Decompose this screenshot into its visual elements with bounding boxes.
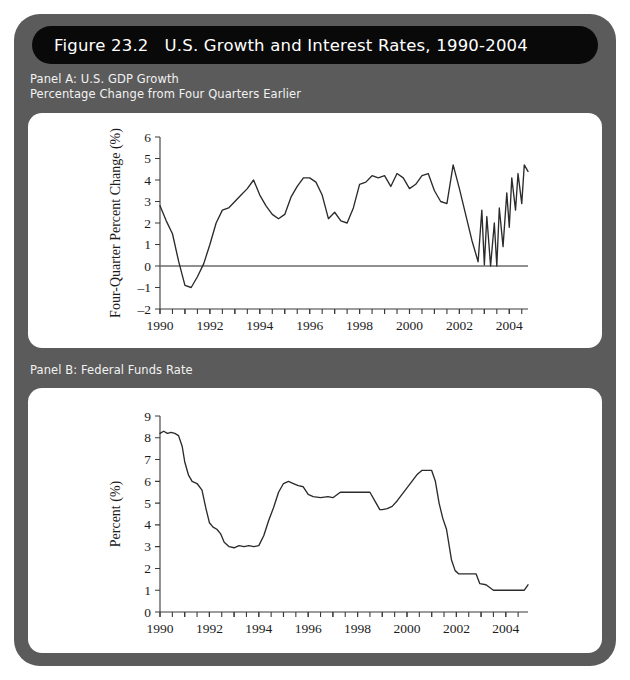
- x-tick-label: 1990: [147, 621, 174, 636]
- y-tick-label: –2: [137, 302, 152, 317]
- x-tick-label: 1992: [196, 318, 223, 333]
- x-tick-label: 2002: [443, 621, 470, 636]
- page-title: Figure 23.2U.S. Growth and Interest Rate…: [32, 36, 528, 55]
- panel-b-caption: Panel B: Federal Funds Rate: [30, 363, 193, 378]
- x-tick-label: 1996: [295, 621, 322, 636]
- y-axis-title: Percent (%): [108, 480, 124, 547]
- y-tick-label: 5: [144, 496, 151, 511]
- x-tick-label: 1990: [147, 318, 174, 333]
- panel-a-plot: –2–1012345619901992199419961998200020022…: [28, 113, 602, 348]
- x-tick-label: 2004: [492, 621, 519, 636]
- x-tick-label: 1994: [245, 621, 272, 636]
- panel-a-chart-card: –2–1012345619901992199419961998200020022…: [28, 113, 602, 348]
- x-tick-label: 1996: [296, 318, 323, 333]
- y-tick-label: 9: [144, 409, 151, 424]
- y-tick-label: 0: [144, 259, 151, 274]
- x-tick-label: 1998: [346, 318, 373, 333]
- x-tick-label: 2004: [496, 318, 523, 333]
- x-tick-label: 1998: [344, 621, 371, 636]
- y-tick-label: 6: [144, 130, 151, 145]
- figure-number: Figure 23.2: [54, 36, 149, 55]
- y-tick-label: 8: [144, 430, 151, 445]
- panel-b-chart-card: 0123456789199019921994199619982000200220…: [28, 388, 602, 653]
- figure-title-bar: Figure 23.2U.S. Growth and Interest Rate…: [32, 26, 598, 64]
- y-tick-label: 5: [144, 151, 151, 166]
- y-tick-label: 7: [144, 452, 151, 467]
- x-tick-label: 2002: [446, 318, 473, 333]
- data-series-line: [160, 431, 528, 590]
- y-tick-label: 3: [144, 194, 151, 209]
- y-tick-label: 0: [144, 605, 151, 620]
- y-tick-label: 2: [144, 561, 151, 576]
- y-tick-label: 1: [144, 237, 151, 252]
- y-tick-label: 3: [144, 539, 151, 554]
- x-tick-label: 2000: [396, 318, 423, 333]
- y-tick-label: 4: [144, 517, 151, 532]
- y-tick-label: –1: [137, 280, 152, 295]
- x-tick-label: 1994: [246, 318, 273, 333]
- figure-title: U.S. Growth and Interest Rates, 1990-200…: [165, 36, 528, 55]
- panel-b-plot: 0123456789199019921994199619982000200220…: [28, 388, 602, 653]
- figure-container: Figure 23.2U.S. Growth and Interest Rate…: [0, 0, 630, 680]
- y-axis-title: Four-Quarter Percent Change (%): [108, 128, 124, 318]
- y-tick-label: 6: [144, 474, 151, 489]
- x-tick-label: 2000: [393, 621, 420, 636]
- y-tick-label: 1: [144, 583, 151, 598]
- data-series-line: [160, 165, 528, 288]
- x-tick-label: 1992: [196, 621, 223, 636]
- y-tick-label: 4: [144, 173, 151, 188]
- panel-a-caption: Panel A: U.S. GDP Growth Percentage Chan…: [30, 72, 301, 101]
- y-tick-label: 2: [144, 216, 151, 231]
